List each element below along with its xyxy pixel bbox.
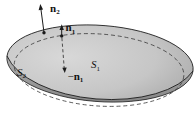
n2-arrowhead-icon: [39, 4, 44, 10]
surface-orientation-figure: n2 n1 −n1 S1 S2: [0, 0, 196, 123]
figure-canvas: n2 n1 −n1 S1 S2: [0, 0, 196, 123]
n2-base-point: [42, 31, 45, 34]
n2-vector-shaft: [41, 9, 44, 33]
n1-base-point: [60, 34, 63, 37]
label-n2: n2: [50, 2, 60, 17]
